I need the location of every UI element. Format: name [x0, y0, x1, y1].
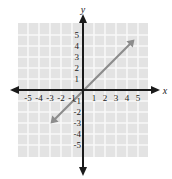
x-tick-label: -4: [35, 93, 43, 103]
arrow-left-icon: [10, 86, 19, 94]
y-tick-labels-positive: 5 4 3 2 1: [75, 30, 80, 84]
coordinate-plane-figure: -5 -4 -3 -2 -1 1 2 3 4 5 5 4 3 2 1 -1 -2…: [0, 0, 172, 179]
y-tick-labels-negative: -1 -2 -3 -4 -5: [74, 96, 82, 150]
x-tick-label: 3: [114, 93, 119, 103]
x-tick-label: -3: [46, 93, 54, 103]
arrow-right-icon: [151, 86, 160, 94]
arrow-down-icon: [79, 167, 87, 176]
graph-canvas: -5 -4 -3 -2 -1 1 2 3 4 5 5 4 3 2 1 -1 -2…: [0, 0, 172, 179]
y-tick-label: -5: [74, 140, 82, 150]
x-tick-label: 1: [92, 93, 97, 103]
x-tick-label: -2: [57, 93, 65, 103]
x-tick-label: 4: [125, 93, 130, 103]
y-tick-label: 5: [75, 30, 80, 40]
y-tick-label: 2: [75, 63, 80, 73]
y-tick-label: -3: [74, 118, 82, 128]
x-axis-label: x: [162, 85, 168, 96]
y-tick-label: 4: [75, 41, 80, 51]
x-tick-label: -5: [24, 93, 32, 103]
x-tick-label: 2: [103, 93, 108, 103]
y-axis-label: y: [80, 4, 86, 15]
y-tick-label: -1: [74, 96, 82, 106]
y-tick-label: 1: [75, 74, 80, 84]
y-tick-label: 3: [75, 52, 80, 62]
x-tick-label: 5: [136, 93, 141, 103]
y-tick-label: -2: [74, 107, 82, 117]
arrow-up-icon: [79, 14, 87, 23]
y-tick-label: -4: [74, 129, 82, 139]
